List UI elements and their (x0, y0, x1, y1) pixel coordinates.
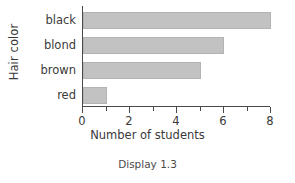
bar-chart: Hair color black blond brown red (0, 0, 295, 150)
y-axis-tick-label: blond (18, 37, 76, 54)
bar-series (83, 12, 272, 112)
x-axis-tick-label: 2 (117, 114, 141, 128)
bar-red (83, 87, 107, 104)
bar-blond (83, 37, 224, 54)
x-axis-tick-label: 6 (211, 114, 235, 128)
x-axis-tick-minor (106, 107, 107, 111)
y-axis-tick-label: red (18, 87, 76, 104)
x-axis-title: Number of students (0, 128, 295, 142)
bar-row (83, 62, 272, 79)
figure: Hair color black blond brown red (0, 0, 295, 183)
x-axis-tick-major (129, 107, 130, 113)
x-axis-tick-major (176, 107, 177, 113)
bar-black (83, 12, 271, 29)
figure-caption: Display 1.3 (0, 158, 295, 170)
y-axis-tick-label: brown (18, 62, 76, 79)
x-axis-tick-major (223, 107, 224, 113)
plot-area: 02468 (82, 6, 272, 106)
bar-row (83, 37, 272, 54)
y-axis-tick-label: black (18, 12, 76, 29)
x-axis-tick-minor (247, 107, 248, 111)
bar-brown (83, 62, 201, 79)
x-axis-tick-major (270, 107, 271, 113)
y-axis-tick-labels: black blond brown red (18, 12, 76, 112)
x-axis-tick-minor (153, 107, 154, 111)
bar-row (83, 87, 272, 104)
x-axis-tick-label: 8 (258, 114, 282, 128)
x-axis-tick-minor (200, 107, 201, 111)
x-axis-tick-label: 4 (164, 114, 188, 128)
x-axis-tick-label: 0 (70, 114, 94, 128)
bar-row (83, 12, 272, 29)
x-axis-tick-major (82, 107, 83, 113)
